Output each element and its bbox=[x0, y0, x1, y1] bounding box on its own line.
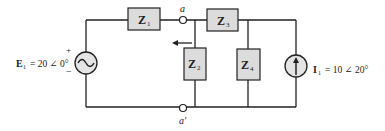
svg-text:a′: a′ bbox=[179, 115, 187, 126]
svg-text:1: 1 bbox=[23, 64, 26, 70]
current-source bbox=[285, 55, 307, 77]
svg-text:I: I bbox=[313, 64, 317, 75]
impedance-z1: Z 1 bbox=[128, 8, 160, 30]
svg-text:= 10 ∠ 20°: = 10 ∠ 20° bbox=[325, 65, 368, 75]
voltage-source-label: E 1 = 20 ∠ 0° bbox=[16, 58, 69, 70]
svg-text:+: + bbox=[66, 45, 71, 55]
node-a: a bbox=[180, 3, 187, 24]
impedance-z2: Z 2 bbox=[184, 48, 206, 80]
svg-text:a: a bbox=[180, 3, 185, 14]
svg-text:Z: Z bbox=[217, 14, 225, 28]
voltage-source: + − bbox=[66, 45, 97, 77]
svg-text:3: 3 bbox=[226, 21, 230, 29]
svg-text:1: 1 bbox=[147, 20, 151, 28]
svg-text:Z: Z bbox=[138, 13, 146, 27]
impedance-z3: Z 3 bbox=[207, 9, 238, 31]
svg-text:E: E bbox=[16, 58, 23, 69]
direction-arrow-icon bbox=[172, 40, 192, 46]
svg-text:Z: Z bbox=[188, 57, 196, 71]
svg-text:4: 4 bbox=[250, 65, 254, 73]
impedance-z4: Z 4 bbox=[237, 49, 260, 80]
svg-text:1: 1 bbox=[318, 70, 321, 76]
svg-text:Z: Z bbox=[241, 58, 249, 72]
svg-text:2: 2 bbox=[197, 64, 201, 72]
node-a-prime: a′ bbox=[179, 105, 187, 127]
circuit-svg: Z 1 Z 3 Z 2 Z 4 a a′ + − E bbox=[0, 0, 385, 131]
svg-text:= 20 ∠ 0°: = 20 ∠ 0° bbox=[30, 59, 69, 69]
current-source-label: I 1 = 10 ∠ 20° bbox=[313, 64, 368, 76]
circuit-diagram: Z 1 Z 3 Z 2 Z 4 a a′ + − E bbox=[0, 0, 385, 131]
